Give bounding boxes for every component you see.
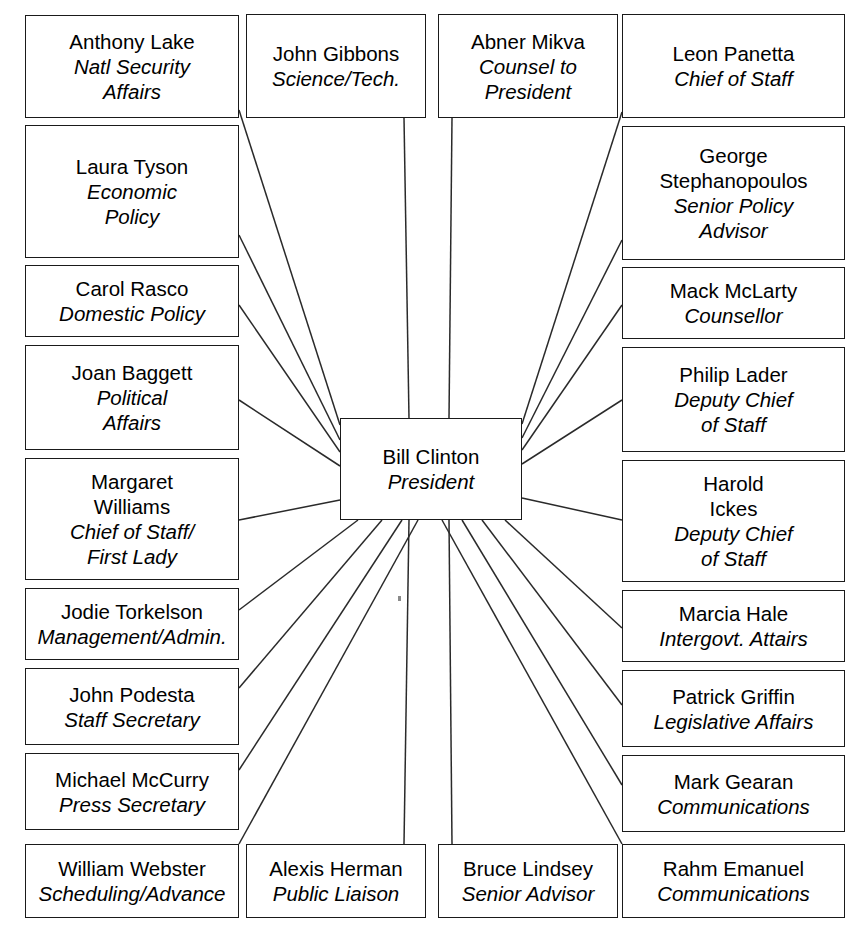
connector-line-philip-lader [522, 400, 622, 464]
node-person-title: Deputy Chief of Staff [674, 521, 793, 571]
node-person-name: Rahm Emanuel [663, 856, 804, 881]
node-person-name: Harold Ickes [703, 471, 763, 521]
connector-line-william-webster [239, 520, 418, 844]
connector-line-john-gibbons [404, 118, 409, 418]
node-person-name: Jodie Torkelson [61, 599, 203, 624]
node-person-name: Bill Clinton [383, 444, 480, 469]
org-chart-canvas: Anthony LakeNatl Security AffairsJohn Gi… [0, 0, 866, 936]
node-box-marcia-hale[interactable]: Marcia HaleIntergovt. Attairs [622, 590, 845, 662]
node-person-title: Counsel to President [479, 54, 577, 104]
node-person-name: Carol Rasco [76, 276, 189, 301]
node-person-name: Marcia Hale [679, 601, 788, 626]
connector-line-margaret-williams [239, 500, 340, 520]
node-person-name: John Podesta [69, 682, 194, 707]
node-person-title: Public Liaison [273, 881, 400, 906]
node-box-john-gibbons[interactable]: John GibbonsScience/Tech. [246, 14, 426, 118]
connector-line-bruce-lindsey [449, 520, 452, 844]
node-person-title: Senior Advisor [462, 881, 595, 906]
node-box-leon-panetta[interactable]: Leon PanettaChief of Staff [622, 14, 845, 118]
node-box-bruce-lindsey[interactable]: Bruce LindseySenior Advisor [438, 844, 618, 918]
node-box-philip-lader[interactable]: Philip LaderDeputy Chief of Staff [622, 347, 845, 452]
node-box-center[interactable]: Bill ClintonPresident [340, 418, 522, 520]
node-box-john-podesta[interactable]: John PodestaStaff Secretary [25, 668, 239, 745]
connector-line-patrick-griffin [482, 520, 622, 705]
node-person-title: Deputy Chief of Staff [674, 387, 793, 437]
node-person-title: Legislative Affairs [654, 709, 814, 734]
connector-line-leon-panetta [522, 112, 622, 424]
connector-line-mack-mclarty [522, 305, 622, 450]
node-person-title: Natl Security Affairs [74, 54, 190, 104]
node-person-title: Chief of Staff/ First Lady [70, 519, 194, 569]
connector-line-alexis-herman [404, 520, 409, 844]
node-person-name: George Stephanopoulos [659, 143, 807, 193]
node-box-harold-ickes[interactable]: Harold IckesDeputy Chief of Staff [622, 460, 845, 582]
scan-artifact-mark [398, 596, 401, 601]
connector-line-marcia-hale [505, 520, 622, 628]
connector-line-abner-mikva [449, 118, 452, 418]
node-person-name: Alexis Herman [269, 856, 402, 881]
node-person-title: Press Secretary [59, 792, 205, 817]
node-person-title: Domestic Policy [59, 301, 205, 326]
node-person-name: Mack McLarty [670, 278, 798, 303]
node-person-name: Philip Lader [679, 362, 787, 387]
node-person-name: William Webster [58, 856, 206, 881]
connector-line-laura-tyson [239, 235, 340, 440]
node-box-margaret-williams[interactable]: Margaret WilliamsChief of Staff/ First L… [25, 458, 239, 580]
node-box-laura-tyson[interactable]: Laura TysonEconomic Policy [25, 125, 239, 258]
node-box-anthony-lake[interactable]: Anthony LakeNatl Security Affairs [25, 15, 239, 118]
node-person-name: Margaret Williams [91, 469, 173, 519]
connector-line-harold-ickes [522, 498, 622, 520]
node-person-title: Staff Secretary [64, 707, 200, 732]
node-person-name: Bruce Lindsey [463, 856, 593, 881]
node-person-title: Intergovt. Attairs [659, 626, 808, 651]
node-person-title: Science/Tech. [272, 66, 400, 91]
node-person-title: Chief of Staff [674, 66, 793, 91]
node-person-title: Counsellor [685, 303, 783, 328]
node-person-name: John Gibbons [273, 41, 400, 66]
connector-line-jodie-torkelson [239, 520, 358, 610]
node-box-rahm-emanuel[interactable]: Rahm EmanuelCommunications [622, 844, 845, 918]
node-person-title: Communications [657, 794, 810, 819]
connector-line-john-podesta [239, 520, 382, 688]
node-box-michael-mccurry[interactable]: Michael McCurryPress Secretary [25, 753, 239, 830]
node-box-mark-gearan[interactable]: Mark GearanCommunications [622, 755, 845, 832]
node-person-title: Economic Policy [87, 179, 177, 229]
node-box-patrick-griffin[interactable]: Patrick GriffinLegislative Affairs [622, 670, 845, 747]
node-person-name: Abner Mikva [471, 29, 585, 54]
node-person-name: Leon Panetta [673, 41, 795, 66]
connector-line-carol-rasco [239, 305, 340, 452]
connector-line-george-stephanopoulos [522, 240, 622, 438]
node-person-name: Anthony Lake [69, 29, 194, 54]
node-person-name: Joan Baggett [72, 360, 193, 385]
connector-line-anthony-lake [239, 110, 340, 425]
node-person-title: Senior Policy Advisor [674, 193, 794, 243]
node-box-george-stephanopoulos[interactable]: George StephanopoulosSenior Policy Advis… [622, 126, 845, 260]
node-person-name: Mark Gearan [674, 769, 794, 794]
node-person-name: Laura Tyson [76, 154, 188, 179]
connector-line-mark-gearan [462, 520, 622, 785]
node-person-title: Management/Admin. [37, 624, 226, 649]
node-box-william-webster[interactable]: William WebsterScheduling/Advance [25, 844, 239, 918]
connector-line-joan-baggett [239, 400, 340, 466]
node-person-title: Communications [657, 881, 810, 906]
node-person-title: Scheduling/Advance [39, 881, 226, 906]
node-person-title: President [388, 469, 475, 494]
node-person-name: Patrick Griffin [672, 684, 795, 709]
node-box-alexis-herman[interactable]: Alexis HermanPublic Liaison [246, 844, 426, 918]
connector-line-michael-mccurry [239, 520, 402, 770]
node-box-jodie-torkelson[interactable]: Jodie TorkelsonManagement/Admin. [25, 588, 239, 660]
node-box-carol-rasco[interactable]: Carol RascoDomestic Policy [25, 265, 239, 337]
node-box-mack-mclarty[interactable]: Mack McLartyCounsellor [622, 267, 845, 339]
connector-line-rahm-emanuel [442, 520, 622, 844]
node-box-joan-baggett[interactable]: Joan BaggettPolitical Affairs [25, 345, 239, 450]
node-box-abner-mikva[interactable]: Abner MikvaCounsel to President [438, 14, 618, 118]
node-person-title: Political Affairs [97, 385, 168, 435]
node-person-name: Michael McCurry [55, 767, 209, 792]
